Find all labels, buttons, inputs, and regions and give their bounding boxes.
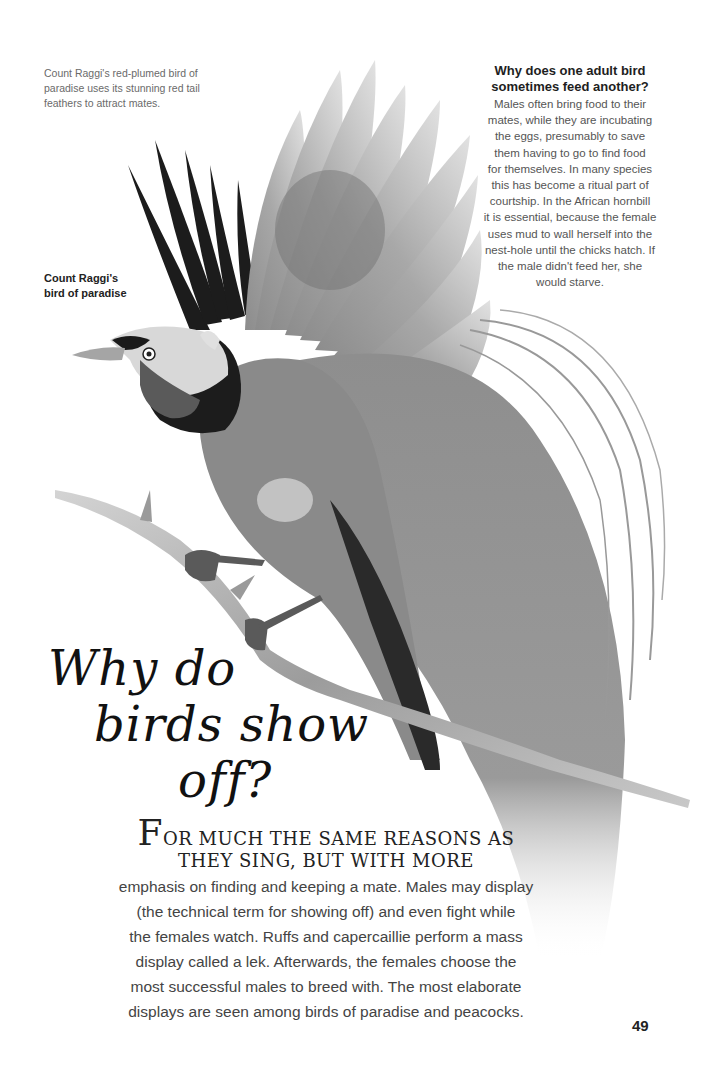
body-line: most successful males to breed with. The… bbox=[36, 974, 616, 999]
intro-paragraph: FOR MUCH THE SAME REASONS AS THEY SING, … bbox=[36, 818, 616, 1024]
sidebar-answer-line: courtship. In the African hornbill bbox=[470, 193, 670, 209]
sidebar-answer-line: this has become a ritual part of bbox=[470, 177, 670, 193]
sidebar-answer-line: nest-hole until the chicks hatch. If bbox=[470, 242, 670, 258]
drop-cap: F bbox=[138, 812, 163, 853]
intro-body: emphasis on finding and keeping a mate. … bbox=[36, 874, 616, 1024]
body-line: emphasis on finding and keeping a mate. … bbox=[36, 874, 616, 899]
bird-label-line-2: bird of paradise bbox=[44, 286, 174, 301]
sidebar-answer-line: uses mud to wall herself into the bbox=[470, 226, 670, 242]
bird-head bbox=[72, 327, 241, 434]
title-line-3: off? bbox=[48, 752, 369, 808]
sidebar-answer-line: the eggs, presumably to save bbox=[470, 128, 670, 144]
sidebar-answer-line: the male didn't feed her, she bbox=[470, 258, 670, 274]
illustration-caption: Count Raggi's red-plumed bird of paradis… bbox=[44, 66, 214, 111]
dark-crest-feathers bbox=[128, 140, 258, 330]
sidebar-answer-line: it is essential, because the female bbox=[470, 209, 670, 225]
sidebar-question-line-1: Why does one adult bird bbox=[470, 63, 670, 79]
sidebar-answer-line: mates, while they are incubating bbox=[470, 112, 670, 128]
sidebar-answer-line: them having to go to find food bbox=[470, 145, 670, 161]
body-line: the females watch. Ruffs and capercailli… bbox=[36, 924, 616, 949]
bird-label-line-1: Count Raggi's bbox=[44, 271, 174, 286]
intro-caps-line-1: FOR MUCH THE SAME REASONS AS bbox=[36, 818, 616, 850]
body-line: display called a lek. Afterwards, the fe… bbox=[36, 949, 616, 974]
page-title: Why do birds show off? bbox=[48, 640, 369, 808]
title-line-2: birds show bbox=[48, 696, 369, 752]
body-line: (the technical term for showing off) and… bbox=[36, 899, 616, 924]
sidebar-qa-box: Why does one adult bird sometimes feed a… bbox=[470, 63, 670, 290]
title-line-1: Why do bbox=[48, 640, 369, 696]
page-number: 49 bbox=[632, 1017, 649, 1034]
body-line: displays are seen among birds of paradis… bbox=[36, 999, 616, 1024]
bird-species-label: Count Raggi's bird of paradise bbox=[44, 271, 174, 301]
sidebar-answer-line: Males often bring food to their bbox=[470, 96, 670, 112]
intro-caps-line-2: THEY SING, BUT WITH MORE bbox=[36, 850, 616, 872]
sidebar-answer: Males often bring food to their mates, w… bbox=[470, 96, 670, 290]
sidebar-question-line-2: sometimes feed another? bbox=[470, 79, 670, 95]
caps-text: OR MUCH THE SAME REASONS AS bbox=[163, 828, 514, 849]
sidebar-answer-line: would starve. bbox=[470, 274, 670, 290]
sidebar-answer-line: for themselves. In many species bbox=[470, 161, 670, 177]
sidebar-question: Why does one adult bird sometimes feed a… bbox=[470, 63, 670, 95]
